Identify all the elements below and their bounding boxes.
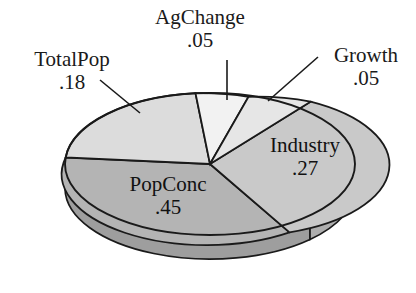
pie-label-growth-category: Growth [318, 44, 414, 67]
pie-label-agchange: AgChange .05 [134, 6, 266, 51]
pie-label-industry-category: Industry [243, 134, 367, 157]
pie-label-agchange-category: AgChange [134, 6, 266, 29]
pie-slice-totalpop [66, 93, 210, 164]
pie-label-agchange-value: .05 [134, 29, 266, 52]
pie-label-industry: Industry .27 [243, 134, 367, 179]
pie-label-growth-value: .05 [318, 67, 414, 90]
pie-label-totalpop-category: TotalPop [8, 48, 136, 71]
pie-label-industry-value: .27 [243, 157, 367, 180]
pie-chart-figure: AgChange .05 Growth .05 TotalPop .18 Ind… [0, 0, 416, 293]
pie-label-totalpop: TotalPop .18 [8, 48, 136, 93]
pie-label-totalpop-value: .18 [8, 71, 136, 94]
pie-label-popconc: PopConc .45 [100, 173, 236, 218]
pie-label-popconc-category: PopConc [100, 173, 236, 196]
pie-label-growth: Growth .05 [318, 44, 414, 89]
pie-label-popconc-value: .45 [100, 196, 236, 219]
leader-line-growth [268, 57, 318, 101]
